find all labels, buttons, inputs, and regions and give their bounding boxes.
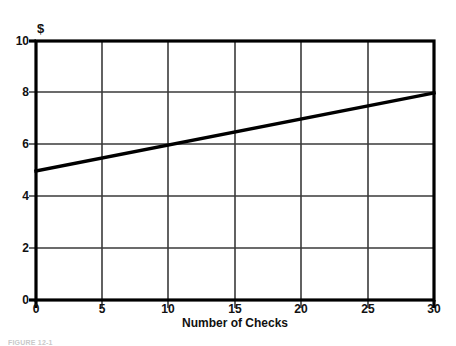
x-tick-label-5: 5 [87,303,117,315]
x-axis-title: Number of Checks [36,317,434,329]
plot-canvas [0,0,456,346]
x-tick-label-0: 0 [21,303,51,315]
x-tick-label-10: 10 [153,303,183,315]
x-tick-label-15: 15 [220,303,250,315]
x-tick-label-25: 25 [353,303,383,315]
y-tick-label-8: 8 [7,86,29,98]
y-tick-label-6: 6 [7,138,29,150]
y-tick-label-4: 4 [7,190,29,202]
y-axis-unit-label: $ [37,22,44,35]
horizontal-gridlines [29,92,434,248]
vertical-gridlines [102,41,368,308]
chart-figure: $ 10 8 6 4 2 0 0 5 10 15 20 25 30 Number… [0,0,456,346]
x-tick-label-20: 20 [286,303,316,315]
y-tick-label-10: 10 [7,35,29,47]
x-tick-label-30: 30 [419,303,449,315]
y-tick-label-2: 2 [7,242,29,254]
figure-caption: FIGURE 12-1 [8,339,53,346]
axis-end-ticks [29,41,434,308]
